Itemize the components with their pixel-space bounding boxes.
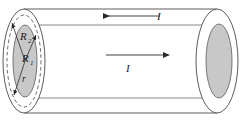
label-R2: R	[19, 30, 27, 42]
right-inner-conductor-ellipse	[206, 24, 232, 98]
label-R1: R	[21, 52, 29, 64]
right-end-cap	[196, 9, 238, 113]
cylinder-body	[24, 9, 219, 113]
current-forward-arrow-group: I	[106, 55, 163, 74]
label-current-top: I	[156, 10, 162, 22]
label-r: r	[22, 74, 26, 84]
label-R2-subscript: 2	[28, 37, 32, 45]
coaxial-cable-figure: R 2 R 1 r I I	[0, 0, 247, 122]
label-R1-subscript: 1	[30, 59, 34, 67]
current-return-arrow-group: I	[103, 10, 162, 22]
label-current-middle: I	[125, 62, 131, 74]
figure-canvas: R 2 R 1 r I I	[0, 0, 247, 122]
